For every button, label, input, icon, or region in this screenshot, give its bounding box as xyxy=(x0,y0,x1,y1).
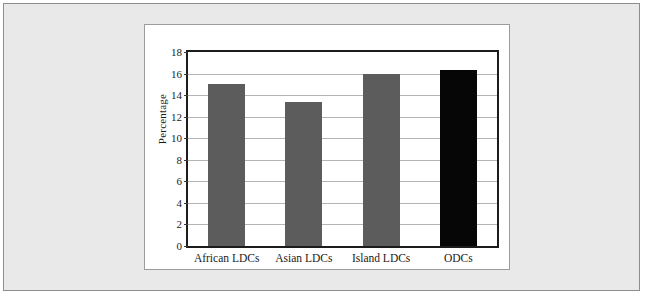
bar-island-ldcs xyxy=(363,74,400,246)
y-axis-tick-label: 18 xyxy=(171,46,182,58)
y-axis-tick-label: 8 xyxy=(177,154,183,166)
bar-african-ldcs xyxy=(208,84,245,246)
y-axis-tick-label: 6 xyxy=(177,175,183,187)
y-axis-tick-mark xyxy=(184,224,188,225)
y-axis-tick-label: 16 xyxy=(171,68,182,80)
y-axis-tick-label: 12 xyxy=(171,111,182,123)
y-axis-title: Percentage xyxy=(156,59,168,179)
chart-panel: Percentage 024681012141618African LDCsAs… xyxy=(144,24,510,270)
y-axis-tick-mark xyxy=(184,203,188,204)
page-frame: Percentage 024681012141618African LDCsAs… xyxy=(3,3,640,291)
y-axis-tick-mark xyxy=(184,246,188,247)
x-axis-category-label: Asian LDCs xyxy=(275,252,332,264)
y-axis-tick-label: 2 xyxy=(177,218,183,230)
plot-area: 024681012141618African LDCsAsian LDCsIsl… xyxy=(186,50,499,248)
y-axis-tick-label: 4 xyxy=(177,197,183,209)
y-axis-tick-label: 14 xyxy=(171,89,182,101)
plot-inner: 024681012141618African LDCsAsian LDCsIsl… xyxy=(188,52,497,246)
y-axis-tick-mark xyxy=(184,138,188,139)
x-axis-category-label: Island LDCs xyxy=(352,252,410,264)
y-axis-tick-label: 0 xyxy=(177,240,183,252)
y-axis-tick-mark xyxy=(184,117,188,118)
y-axis-tick-mark xyxy=(184,181,188,182)
y-axis-tick-label: 10 xyxy=(171,132,182,144)
y-axis-tick-mark xyxy=(184,74,188,75)
bar-odcs xyxy=(440,70,477,246)
y-axis-tick-mark xyxy=(184,95,188,96)
x-axis-category-label: African LDCs xyxy=(194,252,259,264)
y-axis-tick-mark xyxy=(184,160,188,161)
x-axis-category-label: ODCs xyxy=(444,252,473,264)
y-axis-tick-mark xyxy=(184,52,188,53)
bar-asian-ldcs xyxy=(285,102,322,246)
